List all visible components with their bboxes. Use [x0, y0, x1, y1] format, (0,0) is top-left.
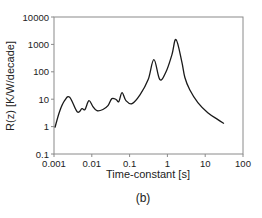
plot-border — [54, 17, 243, 154]
y-tick-label: 10000 — [23, 12, 49, 23]
x-axis-label: Time-constant [s] — [106, 168, 190, 180]
x-axis-ticks: 0.0010.010.1110100 — [42, 154, 251, 169]
y-tick-label: 10 — [38, 94, 49, 105]
y-axis-label: R(z) [K/W/decade] — [4, 41, 16, 131]
x-tick-label: 10 — [200, 158, 211, 169]
y-tick-label: 100 — [33, 66, 49, 77]
x-tick-label: 100 — [235, 158, 251, 169]
x-tick-label: 0.01 — [83, 158, 102, 169]
x-tick-label: 0.001 — [42, 158, 66, 169]
y-tick-label: 1000 — [28, 39, 49, 50]
y-tick-label: 1 — [44, 121, 49, 132]
figure-caption: (b) — [136, 191, 151, 205]
data-line — [55, 39, 224, 127]
y-tick-label: 0.1 — [36, 149, 49, 160]
chart: 0.0010.010.1110100 0.1110100100010000 Ti… — [0, 0, 262, 218]
y-axis-ticks: 0.1110100100010000 — [23, 12, 54, 160]
plot-frame — [54, 17, 243, 154]
